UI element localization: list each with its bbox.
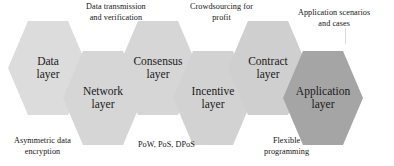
hex-label-line1: Network [83, 85, 123, 98]
leader-line-application-scenarios [345, 28, 346, 44]
caption-data-transmission-and-verification: Data transmission and verification [86, 2, 146, 24]
caption-line1: Data transmission [86, 2, 146, 13]
hex-label-line1: Incentive [192, 85, 235, 98]
caption-line2: profit [190, 13, 253, 24]
caption-line2: and cases [298, 19, 370, 30]
caption-line2: encryption [14, 147, 71, 158]
caption-line1: PoW, PoS, DPoS [138, 140, 195, 151]
hex-label-line1: Data [37, 55, 59, 68]
caption-crowdsourcing-for-profit: Crowdsourcing for profit [190, 2, 253, 24]
caption-line1: Crowdsourcing for [190, 2, 253, 13]
hex-label-line2: layer [312, 98, 335, 111]
hex-label-line2: layer [257, 68, 280, 81]
caption-flexible-programming: Flexible programming [264, 136, 309, 158]
hex-label-line2: layer [37, 68, 60, 81]
hex-label-line1: Consensus [133, 55, 182, 68]
hex-label-line1: Contract [248, 55, 288, 68]
caption-line2: and verification [86, 13, 146, 24]
hex-label-line2: layer [202, 98, 225, 111]
hex-label-line1: Application [296, 85, 350, 98]
hex-label-line2: layer [92, 98, 115, 111]
diagram-canvas: Data layer Network layer Consensus layer… [0, 0, 394, 166]
hex-label-line2: layer [147, 68, 170, 81]
caption-asymmetric-data-encryption: Asymmetric data encryption [14, 136, 71, 158]
caption-pow-pos-dpos: PoW, PoS, DPoS [138, 140, 195, 151]
caption-line1: Asymmetric data [14, 136, 71, 147]
caption-line1: Application scenarios [298, 8, 370, 19]
caption-line1: Flexible [264, 136, 309, 147]
caption-line2: programming [264, 147, 309, 158]
caption-application-scenarios-and-cases: Application scenarios and cases [298, 8, 370, 30]
